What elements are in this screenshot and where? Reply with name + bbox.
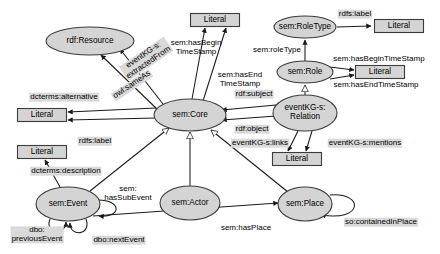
class-node-sem-place <box>278 187 332 221</box>
edge-subclass-event <box>90 128 169 191</box>
edge-rdf-object <box>222 116 276 120</box>
edge-extractedfrom <box>120 49 163 104</box>
edge-hasendtimestamp-role <box>330 75 354 79</box>
class-node-sem-actor <box>160 186 220 220</box>
edge-hasbegintimestamp-role <box>330 67 354 70</box>
edge-rdfs-label-core <box>68 118 156 120</box>
ontology-diagram: rdf:Resourcesem:Coresem:RoleTypesem:Role… <box>0 0 440 254</box>
literal-node-literal-top-right <box>375 20 424 33</box>
edge-rdf-subject <box>222 105 276 110</box>
edge-rdfs-label-roletype <box>337 26 371 27</box>
edge-hasbegintimestamp-core <box>192 28 205 99</box>
class-node-shapes <box>36 16 337 221</box>
literal-node-literal-left-upper <box>18 109 67 122</box>
literal-node-literal-role-right <box>356 66 405 79</box>
edge-dcterms-description <box>45 160 60 187</box>
class-node-sem-event <box>36 187 100 221</box>
diagram-edges-layer <box>0 0 440 254</box>
literal-node-literal-left-lower <box>18 146 67 159</box>
edge-hassubevent <box>98 200 116 216</box>
class-node-sem-role <box>277 61 333 83</box>
class-node-rdf-resource <box>46 27 134 55</box>
edge-owlsameas <box>101 55 158 110</box>
literal-node-literal-relation <box>273 153 322 166</box>
class-node-sem-core <box>154 99 226 131</box>
edge-eventkg-mentions <box>306 131 312 151</box>
edge-hasendtimestamp-core <box>203 28 226 101</box>
class-node-eventkg-relation <box>273 95 337 131</box>
edge-dcterms-alternative <box>68 108 156 112</box>
edge-eventkg-links <box>288 131 298 151</box>
literal-node-literal-top-center <box>191 14 240 27</box>
class-node-sem-roletype <box>274 16 336 38</box>
